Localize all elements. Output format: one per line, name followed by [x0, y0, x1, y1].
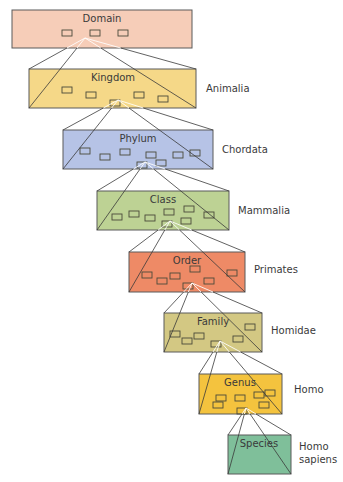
rank-label-class: Class — [150, 194, 176, 205]
taxon-name-animalia: Animalia — [206, 83, 250, 94]
rank-label-genus: Genus — [224, 377, 256, 388]
rank-label-family: Family — [197, 316, 229, 327]
taxonomy-diagram: Domain Kingdom Phylum Class Order Family… — [0, 0, 343, 482]
taxon-name-chordata: Chordata — [222, 144, 268, 155]
rank-label-kingdom: Kingdom — [91, 72, 135, 83]
rank-label-domain: Domain — [83, 13, 122, 24]
taxon-name-homo-sapiens-line1: Homo — [299, 441, 329, 452]
rank-label-species: Species — [240, 438, 279, 449]
rank-label-order: Order — [173, 255, 202, 266]
taxon-name-mammalia: Mammalia — [238, 205, 290, 216]
rank-label-phylum: Phylum — [119, 133, 156, 144]
rank-panels — [12, 10, 291, 474]
taxon-name-homidae: Homidae — [271, 325, 316, 336]
taxon-name-homo: Homo — [294, 384, 324, 395]
taxon-name-homo-sapiens-line2: sapiens — [299, 454, 337, 465]
taxon-name-primates: Primates — [254, 264, 298, 275]
